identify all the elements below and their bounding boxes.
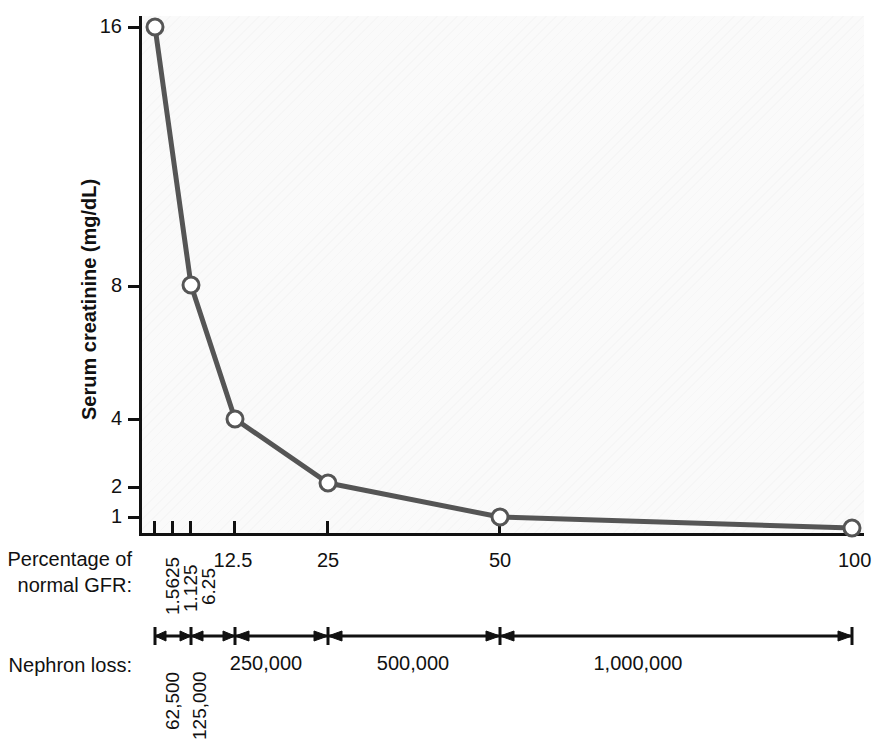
nephron-segment-label: 125,000 — [189, 671, 211, 740]
y-tick-mark — [128, 285, 142, 288]
plot-background — [140, 16, 864, 534]
nephron-segment-label: 62,500 — [162, 672, 184, 730]
y-tick-label: 8 — [66, 274, 122, 297]
gfr-row-title: Percentage of normal GFR: — [0, 546, 132, 598]
nephron-segment-label: 250,000 — [212, 652, 320, 675]
x-tick-mark — [326, 521, 329, 535]
y-axis-line — [139, 16, 142, 535]
x-tick-mark — [171, 521, 174, 535]
x-tick-label: 12.5 — [183, 549, 283, 572]
x-axis-line — [139, 533, 864, 536]
nephron-segment-label: 1,000,000 — [570, 652, 706, 675]
x-tick-label: 25 — [278, 549, 378, 572]
y-tick-label: 1 — [66, 505, 122, 528]
y-axis-title: Serum creatinine (mg/dL) — [78, 179, 101, 420]
y-tick-label: 4 — [66, 407, 122, 430]
nephron-segment-label: 500,000 — [357, 652, 469, 675]
y-tick-mark — [128, 516, 142, 519]
y-tick-mark — [128, 486, 142, 489]
x-tick-label: 100 — [838, 549, 876, 572]
nephron-loss-scale — [155, 627, 852, 645]
x-tick-label: 6.25 — [198, 568, 220, 605]
gfr-row-title-line1: Percentage of — [7, 548, 132, 570]
x-tick-label: 50 — [450, 549, 550, 572]
x-tick-mark — [498, 521, 501, 535]
y-tick-mark — [128, 26, 142, 29]
x-tick-mark — [189, 521, 192, 535]
x-tick-mark — [850, 521, 853, 535]
y-tick-mark — [128, 418, 142, 421]
y-tick-label: 16 — [66, 15, 122, 38]
x-tick-mark — [153, 521, 156, 535]
x-tick-mark — [233, 521, 236, 535]
y-tick-label: 2 — [66, 475, 122, 498]
gfr-row-title-line2: normal GFR: — [18, 574, 132, 596]
nephron-row-title: Nephron loss: — [0, 652, 132, 678]
